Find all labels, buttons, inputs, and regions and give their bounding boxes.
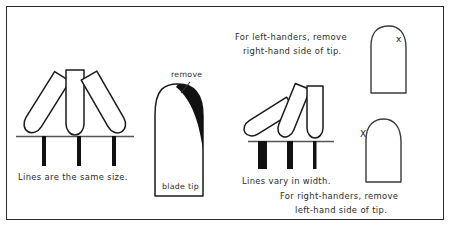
right-nib-group — [241, 83, 334, 169]
nib-left-3 — [81, 71, 129, 136]
top-right-x-mark: x — [396, 34, 402, 44]
bottom-right-x-mark: X — [360, 129, 366, 139]
diagram-canvas: Lines are the same size. remove blade ti… — [0, 0, 452, 228]
left-nib-group — [16, 70, 134, 166]
left-caption: Lines are the same size. — [18, 172, 128, 182]
bottom-right-caption-line2: left-hand side of tip. — [295, 205, 387, 215]
left-stroke-2 — [77, 136, 81, 166]
right-stroke-3 — [313, 141, 317, 169]
nib-right-3 — [307, 86, 323, 138]
diagram-artwork: Lines are the same size. remove blade ti… — [0, 0, 452, 228]
right-stroke-1 — [258, 141, 267, 169]
bottom-right-tip-group — [366, 119, 401, 182]
blade-tip-group — [155, 82, 203, 196]
blade-tip-label: blade tip — [162, 182, 199, 191]
right-caption: Lines vary in width. — [242, 176, 331, 186]
left-stroke-1 — [42, 136, 46, 166]
nib-left-1 — [20, 72, 70, 137]
remove-label: remove — [171, 70, 202, 79]
bottom-right-tip-outline — [366, 119, 401, 182]
top-right-caption-line1: For left-handers, remove — [235, 32, 347, 42]
right-stroke-2 — [287, 141, 293, 169]
left-stroke-3 — [112, 136, 116, 166]
top-right-caption-line2: right-hand side of tip. — [243, 46, 342, 56]
bottom-right-caption-line1: For right-handers, remove — [280, 191, 398, 201]
